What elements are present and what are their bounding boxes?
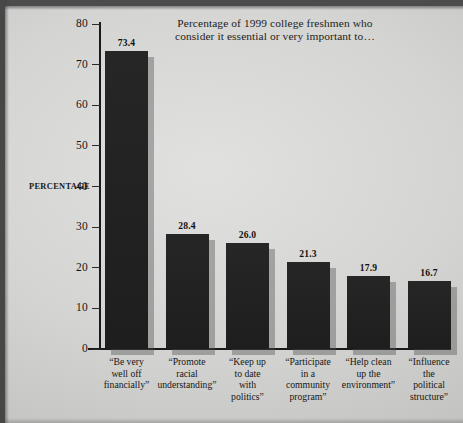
bar-value-label: 17.9 — [337, 262, 400, 273]
bar-category-label-line: “Participate — [276, 356, 341, 368]
bar-category-label: “Help cleanup theenvironment” — [336, 356, 401, 391]
bar-category-label: “Keep upto datewithpolitics” — [215, 356, 280, 402]
bar-category-label: “Promoteracialunderstanding” — [155, 356, 220, 391]
y-tick-mark — [92, 24, 100, 25]
bar-category-label-line: political — [397, 379, 462, 391]
bar-category-label-line: well off — [94, 368, 159, 380]
y-axis-title: PERCENTAGE — [6, 182, 90, 191]
y-tick-label: 80 — [52, 17, 88, 29]
bar[interactable] — [226, 243, 269, 349]
bar[interactable] — [166, 234, 209, 349]
chart-title-line-1: Percentage of 1999 college freshmen who — [150, 17, 400, 30]
bar[interactable] — [105, 51, 148, 349]
y-tick-mark — [92, 186, 100, 187]
y-tick-label: 30 — [52, 220, 88, 232]
y-tick-label: 20 — [52, 261, 88, 273]
y-tick-mark — [92, 227, 100, 228]
bar-value-label: 26.0 — [216, 229, 279, 240]
y-tick-label: 70 — [52, 58, 88, 70]
bar[interactable] — [347, 276, 390, 349]
y-tick-mark — [92, 105, 100, 106]
y-tick-mark — [92, 267, 100, 268]
bar-category-label: “Participatein acommunityprogram” — [276, 356, 341, 402]
bar-value-label: 28.4 — [156, 220, 219, 231]
bar-category-label-line: “Promote — [155, 356, 220, 368]
y-tick-mark — [92, 64, 100, 65]
bar-category-label-line: “Help clean — [336, 356, 401, 368]
bar-category-label: “Influencethepoliticalstructure” — [397, 356, 462, 402]
y-tick-label: 10 — [52, 301, 88, 313]
y-tick-label: 60 — [52, 98, 88, 110]
bar-category-label-line: up the — [336, 368, 401, 380]
bar-category-label-line: the — [397, 368, 462, 380]
bar-category-label-line: “Keep up — [215, 356, 280, 368]
bar-value-label: 16.7 — [398, 267, 461, 278]
chart-title: Percentage of 1999 college freshmen who … — [150, 17, 400, 44]
bar-category-label-line: financially” — [94, 379, 159, 391]
bar-category-label-line: structure” — [397, 391, 462, 403]
bar[interactable] — [408, 281, 451, 349]
y-tick-label: 50 — [52, 139, 88, 151]
bar-category-label-line: “Be very — [94, 356, 159, 368]
y-tick-mark — [92, 308, 100, 309]
bar-category-label-line: in a — [276, 368, 341, 380]
page-edge-bottom-fade — [0, 418, 463, 423]
y-tick-label: 0 — [52, 342, 88, 354]
chart-title-line-2: consider it essential or very important … — [150, 30, 400, 43]
bar-category-label-line: “Influence — [397, 356, 462, 368]
bar-category-label-line: community — [276, 379, 341, 391]
bar-category-label-line: racial — [155, 368, 220, 380]
bar-category-label: “Be verywell offfinancially” — [94, 356, 159, 391]
bar-value-label: 73.4 — [95, 37, 158, 48]
bar-category-label-line: understanding” — [155, 379, 220, 391]
bar-category-label-line: environment” — [336, 379, 401, 391]
bar-category-label-line: with — [215, 379, 280, 391]
bar[interactable] — [287, 262, 330, 349]
page-edge-left-fade — [5, 0, 9, 423]
page-edge-top-fade — [0, 6, 463, 10]
y-tick-mark — [92, 145, 100, 146]
bar-category-label-line: to date — [215, 368, 280, 380]
y-tick-mark — [92, 349, 100, 350]
bar-category-label-line: politics” — [215, 391, 280, 403]
chart-figure: Percentage of 1999 college freshmen who … — [0, 0, 463, 423]
bar-value-label: 21.3 — [277, 248, 340, 259]
bar-category-label-line: program” — [276, 391, 341, 403]
